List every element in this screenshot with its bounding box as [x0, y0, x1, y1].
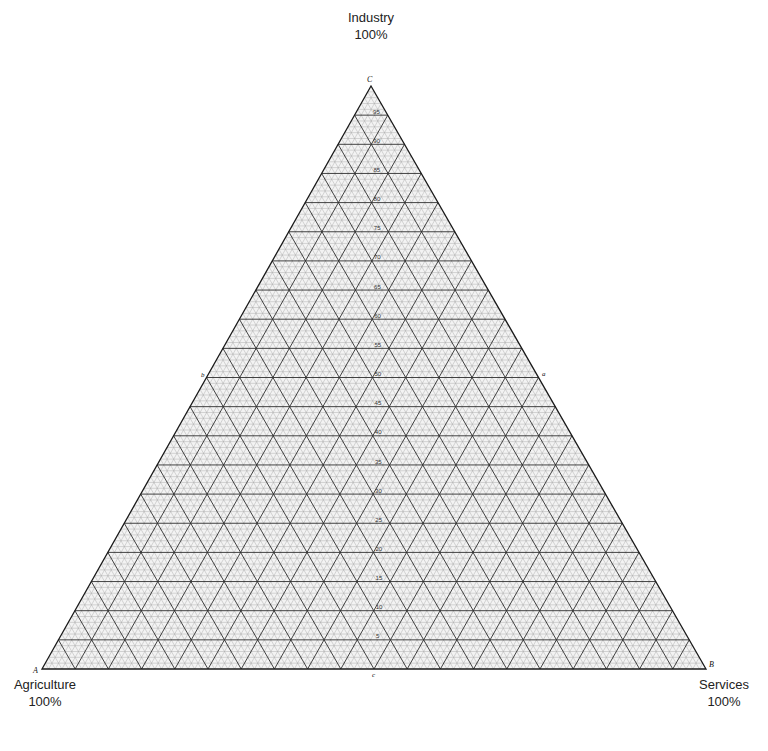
tick-label: 75: [374, 225, 381, 231]
agriculture-vertex-label: Agriculture 100%: [0, 676, 90, 710]
median-a-label: a: [542, 370, 546, 378]
tick-label: 95: [373, 109, 380, 115]
tick-label: 70: [374, 254, 381, 260]
agriculture-percent: 100%: [0, 693, 90, 710]
services-percent: 100%: [680, 693, 768, 710]
tick-label: 50: [375, 371, 382, 377]
tick-label: 45: [375, 400, 382, 406]
median-c-label: c: [372, 671, 376, 679]
ternary-chart: 5101520253035404550556065707580859095 A …: [0, 0, 768, 751]
tick-label: 65: [374, 284, 381, 290]
services-name: Services: [680, 676, 768, 693]
median-b-label: b: [201, 371, 205, 379]
tick-label: 80: [374, 196, 381, 202]
vertex-b-label: B: [709, 660, 714, 669]
services-vertex-label: Services 100%: [680, 676, 768, 710]
industry-percent: 100%: [321, 26, 421, 43]
tick-label: 55: [374, 342, 381, 348]
tick-label: 85: [373, 167, 380, 173]
agriculture-name: Agriculture: [0, 676, 90, 693]
tick-label: 25: [375, 517, 382, 523]
tick-label: 90: [373, 138, 380, 144]
industry-name: Industry: [321, 9, 421, 26]
tick-label: 10: [376, 604, 383, 610]
tick-label: 20: [375, 546, 382, 552]
industry-vertex-label: Industry 100%: [321, 9, 421, 43]
tick-label: 15: [376, 575, 383, 581]
tick-label: 35: [375, 459, 382, 465]
vertex-c-label: C: [367, 75, 373, 84]
tick-label: 40: [375, 429, 382, 435]
tick-label: 60: [374, 313, 381, 319]
vertex-a-label: A: [32, 666, 38, 675]
tick-label: 30: [375, 488, 382, 494]
